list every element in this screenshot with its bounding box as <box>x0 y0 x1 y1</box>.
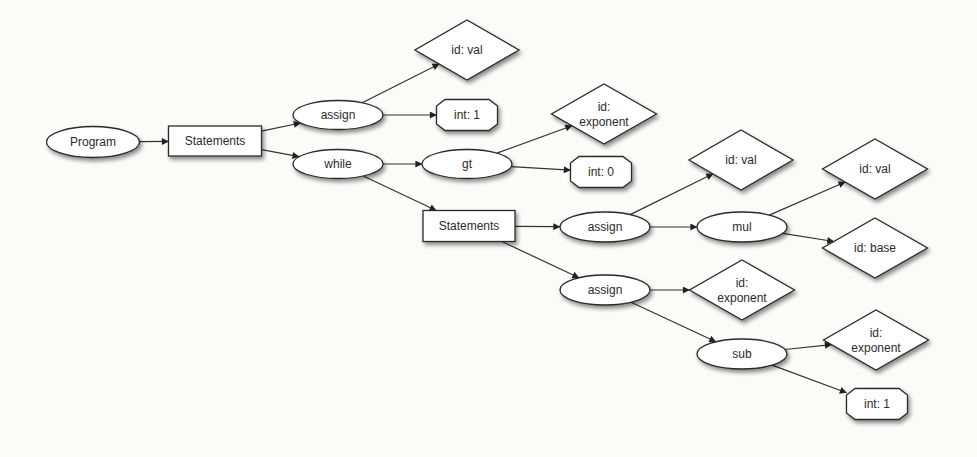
node-int1b: int: 1 <box>847 389 908 420</box>
node-label: Program <box>70 135 116 149</box>
node-label: int: 1 <box>864 397 890 411</box>
node-label: int: 1 <box>454 108 480 122</box>
node-int0: int: 0 <box>571 157 632 188</box>
node-int1a: int: 1 <box>437 100 498 131</box>
node-sub: sub <box>697 339 787 369</box>
edge-statements1-to-assign1 <box>262 123 301 131</box>
edge-assign3-to-sub <box>631 302 716 342</box>
node-label: id: <box>736 276 749 290</box>
node-idval3: id: val <box>823 139 928 199</box>
node-idexp3: id:exponent <box>824 310 929 370</box>
edge-assign1-to-idval1 <box>362 64 439 103</box>
edge-statements2-to-assign3 <box>502 242 579 278</box>
node-label: mul <box>732 220 751 234</box>
node-program: Program <box>47 127 140 158</box>
node-idval1: id: val <box>415 20 519 80</box>
node-statements1: Statements <box>169 126 262 156</box>
edge-gt-to-int0 <box>511 167 570 171</box>
ast-diagram: ProgramStatementsassignwhileid: valint: … <box>0 0 977 457</box>
node-label: Statements <box>185 134 246 148</box>
node-label: int: 0 <box>588 165 614 179</box>
edge-statements1-to-while <box>262 150 300 157</box>
node-assign1: assign <box>293 101 383 130</box>
node-idbase: id: base <box>823 218 928 278</box>
node-label: id: base <box>854 241 896 255</box>
node-label: id: val <box>451 43 482 57</box>
node-while: while <box>293 150 383 179</box>
node-label: exponent <box>717 291 767 305</box>
node-label: exponent <box>579 115 629 129</box>
nodes-layer: ProgramStatementsassignwhileid: valint: … <box>47 20 929 420</box>
node-label: id: val <box>859 162 890 176</box>
node-label: id: val <box>725 153 756 167</box>
node-label: assign <box>588 220 623 234</box>
node-assign2: assign <box>560 212 650 242</box>
node-assign3: assign <box>560 275 650 305</box>
edge-sub-to-int1b <box>772 365 846 393</box>
edge-mul-to-idval3 <box>769 182 845 215</box>
node-label: id: <box>598 100 611 114</box>
node-label: assign <box>321 108 356 122</box>
node-idexp1: id:exponent <box>552 84 657 144</box>
node-gt: gt <box>422 150 512 179</box>
node-label: Statements <box>439 219 500 233</box>
node-label: gt <box>462 157 473 171</box>
node-idexp2: id:exponent <box>690 260 795 320</box>
node-label: while <box>323 157 352 171</box>
edge-gt-to-idexp1 <box>497 126 572 153</box>
edge-assign2-to-idval2 <box>630 174 713 215</box>
node-label: id: <box>870 326 883 340</box>
node-mul: mul <box>697 212 787 242</box>
edge-mul-to-idbase <box>783 233 834 241</box>
edge-while-to-statements2 <box>363 176 436 211</box>
node-label: exponent <box>851 341 901 355</box>
edge-sub-to-idexp3 <box>785 345 832 350</box>
node-label: sub <box>732 347 752 361</box>
node-idval2: id: val <box>689 130 793 190</box>
node-statements2: Statements <box>423 211 515 242</box>
node-label: assign <box>588 283 623 297</box>
